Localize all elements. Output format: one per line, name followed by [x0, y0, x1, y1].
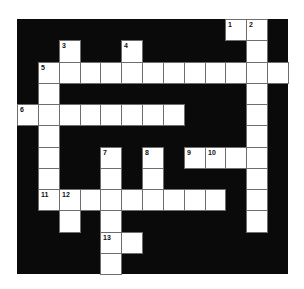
crossword-cell[interactable] — [205, 62, 226, 84]
crossword-cell[interactable] — [163, 189, 185, 211]
crossword-cell[interactable] — [80, 104, 101, 126]
crossword-cell[interactable] — [100, 168, 122, 190]
clue-number: 7 — [103, 149, 107, 157]
crossword-cell[interactable] — [59, 104, 81, 126]
crossword-cell[interactable] — [38, 125, 60, 148]
crossword-cell[interactable]: 10 — [205, 147, 226, 169]
crossword-cell[interactable] — [38, 83, 60, 105]
crossword-cell[interactable]: 4 — [121, 40, 143, 63]
clue-number: 3 — [62, 42, 66, 50]
crossword-cell[interactable] — [142, 168, 164, 190]
clue-number: 12 — [62, 191, 70, 199]
crossword-cell[interactable] — [246, 189, 268, 211]
crossword-cell[interactable] — [80, 189, 101, 211]
crossword-cell[interactable] — [184, 62, 206, 84]
crossword-cell[interactable] — [246, 210, 268, 233]
crossword-cell[interactable] — [100, 104, 122, 126]
crossword-cell[interactable] — [246, 125, 268, 148]
crossword-cell[interactable] — [100, 253, 122, 275]
clue-number: 13 — [103, 234, 111, 242]
crossword-cell[interactable] — [38, 104, 60, 126]
crossword-cell[interactable] — [246, 40, 268, 63]
crossword-cell[interactable] — [142, 62, 164, 84]
clue-number: 2 — [249, 21, 253, 29]
crossword-cell[interactable] — [225, 147, 247, 169]
clue-number: 1 — [228, 21, 232, 29]
crossword-cell[interactable]: 9 — [184, 147, 206, 169]
crossword-cell[interactable] — [246, 83, 268, 105]
crossword-cell[interactable]: 8 — [142, 147, 164, 169]
crossword-cell[interactable] — [121, 62, 143, 84]
crossword-cell[interactable] — [246, 168, 268, 190]
crossword-cell[interactable]: 3 — [59, 40, 81, 63]
clue-number: 5 — [41, 64, 45, 72]
crossword-cell[interactable] — [121, 232, 143, 254]
crossword-cell[interactable]: 7 — [100, 147, 122, 169]
clue-number: 4 — [124, 42, 128, 50]
clue-number: 9 — [187, 149, 191, 157]
clue-number: 8 — [145, 149, 149, 157]
crossword-cell[interactable]: 2 — [246, 19, 268, 41]
crossword-grid: 12345678910111213 — [17, 19, 288, 274]
clue-number: 11 — [41, 191, 48, 199]
crossword-cell[interactable] — [38, 147, 60, 169]
crossword-cell[interactable] — [80, 62, 101, 84]
clue-number: 10 — [208, 149, 216, 157]
clue-number: 6 — [20, 106, 24, 114]
crossword-cell[interactable] — [163, 104, 185, 126]
crossword-cell[interactable] — [142, 189, 164, 211]
crossword-cell[interactable]: 12 — [59, 189, 81, 211]
crossword-cell[interactable]: 6 — [17, 104, 39, 126]
crossword-cell[interactable] — [205, 189, 226, 211]
crossword-cell[interactable] — [59, 62, 81, 84]
crossword-cell[interactable] — [38, 168, 60, 190]
crossword-cell[interactable] — [246, 147, 268, 169]
crossword-cell[interactable] — [246, 104, 268, 126]
crossword-cell[interactable] — [246, 62, 268, 84]
crossword-cell[interactable] — [59, 210, 81, 233]
crossword-cell[interactable] — [184, 189, 206, 211]
crossword-cell[interactable] — [100, 189, 122, 211]
crossword-cell[interactable] — [121, 189, 143, 211]
crossword-cell[interactable] — [100, 210, 122, 233]
crossword-cell[interactable] — [267, 62, 289, 84]
crossword-cell[interactable]: 1 — [225, 19, 247, 41]
crossword-cell[interactable]: 13 — [100, 232, 122, 254]
crossword-cell[interactable] — [121, 104, 143, 126]
crossword-cell[interactable] — [225, 62, 247, 84]
crossword-cell[interactable] — [163, 62, 185, 84]
crossword-cell[interactable] — [142, 104, 164, 126]
crossword-cell[interactable]: 5 — [38, 62, 60, 84]
crossword-cell[interactable] — [100, 62, 122, 84]
crossword-cell[interactable]: 11 — [38, 189, 60, 211]
